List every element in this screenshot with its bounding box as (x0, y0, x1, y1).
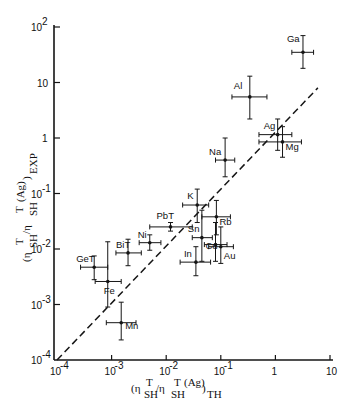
point-marker (148, 241, 152, 245)
x-axis-title-slash: /η (156, 382, 165, 394)
y-axis-title-sup: T (13, 238, 25, 245)
scatter-chart: GaAlAgMgNaKRbSnCuAuInPbTNiBiTGeTFeMn 10-… (0, 0, 350, 419)
x-axis-title-sup: T (146, 376, 153, 388)
y-tick-label: 10 (31, 22, 43, 33)
data-point-na: Na (209, 138, 235, 177)
y-tick-label: 10 (37, 78, 49, 89)
point-marker (126, 251, 130, 255)
point-marker (194, 260, 198, 264)
point-marker (248, 95, 252, 99)
data-point-mg: Mg (259, 127, 301, 158)
tick-labels: 10-410-310-210-111010-410-310-210-111010… (31, 16, 338, 377)
y-tick-exponent: -2 (42, 238, 51, 249)
y-axis-title-slash: /η (20, 225, 32, 234)
point-marker (195, 203, 199, 207)
y-tick-exponent: 2 (42, 16, 48, 27)
point-label: Ga (287, 33, 300, 44)
point-marker (106, 280, 110, 284)
y-axis-title-exp: EXP (27, 153, 39, 174)
point-label: Mn (125, 320, 138, 331)
point-marker (92, 265, 96, 269)
data-point-ni: Ni (138, 229, 161, 251)
x-tick-label: 10 (326, 366, 338, 377)
data-point-mn: Mn (106, 302, 138, 340)
data-point-ge: GeT (76, 253, 108, 279)
y-axis-title-sup2: T (13, 206, 25, 213)
x-axis-title-sub2: SH (171, 388, 185, 400)
data-points: GaAlAgMgNaKRbSnCuAuInPbTNiBiTGeTFeMn (76, 33, 313, 340)
y-tick-label: 10 (31, 189, 43, 200)
point-label: BiT (116, 239, 130, 250)
point-label: Mg (286, 141, 299, 152)
point-marker (223, 158, 227, 162)
y-axis-title-ag: (Ag) (14, 181, 27, 202)
y-tick-label: 1 (42, 133, 48, 144)
point-label: PbT (157, 210, 175, 221)
y-axis-title-sub: SH (27, 234, 39, 248)
point-marker (119, 321, 123, 325)
point-label: Al (234, 80, 242, 91)
x-axis-title: (η (131, 382, 141, 395)
data-point-ga: Ga (287, 33, 314, 68)
x-tick-exponent: -1 (224, 360, 233, 371)
y-axis-title-sub2: SH (27, 202, 39, 216)
point-label: Cu (206, 240, 218, 251)
data-point-in: In (180, 247, 210, 276)
y-axis-title-close: ) (20, 176, 33, 180)
point-marker (219, 245, 223, 249)
point-marker (215, 215, 219, 219)
point-marker (281, 140, 285, 144)
y-axis-title: (η (20, 252, 33, 262)
x-tick-exponent: -4 (60, 360, 69, 371)
x-axis-title-sup2: T (174, 376, 181, 388)
point-marker (200, 236, 204, 240)
data-point-bi: BiT (116, 239, 141, 266)
point-label: Ag (264, 120, 276, 131)
x-axis-title-th: TH (207, 388, 222, 400)
point-label: GeT (76, 253, 95, 264)
data-point-fe: Fe (95, 242, 121, 307)
point-label: Au (224, 250, 236, 261)
point-label: Rb (219, 216, 231, 227)
point-label: Ni (138, 229, 147, 240)
point-label: Sn (188, 223, 200, 234)
y-tick-label: 10 (31, 355, 43, 366)
point-marker (276, 133, 280, 137)
point-label: In (184, 248, 192, 259)
point-label: K (187, 190, 194, 201)
point-label: Na (209, 146, 222, 157)
x-tick-exponent: -2 (169, 360, 178, 371)
y-tick-exponent: -4 (42, 349, 51, 360)
data-point-pb: PbT (150, 210, 192, 231)
point-marker (301, 51, 305, 55)
y-tick-exponent: -1 (42, 183, 51, 194)
data-point-al: Al (232, 76, 267, 119)
x-tick-label: 1 (271, 366, 277, 377)
x-tick-exponent: -3 (115, 360, 124, 371)
point-label: Fe (104, 285, 115, 296)
data-point-rb: Rb (202, 200, 232, 234)
y-tick-label: 10 (31, 300, 43, 311)
x-axis-title-close: ) (202, 382, 206, 395)
point-marker (169, 225, 173, 229)
y-tick-exponent: -3 (42, 294, 51, 305)
